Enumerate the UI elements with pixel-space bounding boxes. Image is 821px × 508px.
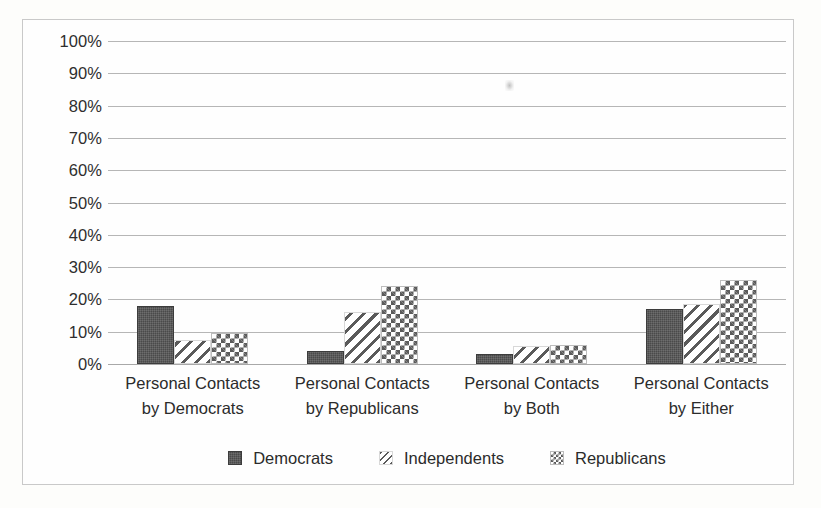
legend-swatch-icon [228,451,242,465]
bar-republicans[interactable] [550,345,587,364]
chart-legend: DemocratsIndependentsRepublicans [108,443,786,473]
gridline [108,364,786,365]
legend-swatch-icon [550,451,564,465]
bar-democrats[interactable] [476,354,513,364]
legend-swatch-icon [379,451,393,465]
bar-democrats[interactable] [137,306,174,364]
bar-republicans[interactable] [381,286,418,364]
y-axis-tick-label: 80% [69,96,102,115]
y-axis-tick-label: 10% [69,322,102,341]
y-axis-tick-label: 100% [59,32,102,51]
y-axis-tick-label: 30% [69,258,102,277]
y-axis: 100%90%80%70%60%50%40%30%20%10%0% [28,41,102,364]
bar-independents[interactable] [513,346,550,364]
bar-republicans[interactable] [211,333,248,364]
y-axis-tick-label: 50% [69,193,102,212]
bar-democrats[interactable] [646,309,683,364]
y-axis-tick-label: 20% [69,290,102,309]
bar-democrats[interactable] [307,351,344,364]
x-axis-category-label: Personal Contacts by Democrats [108,371,278,421]
bar-independents[interactable] [683,304,720,364]
legend-item-independents[interactable]: Independents [379,449,504,468]
bar-republicans[interactable] [720,280,757,364]
y-axis-tick-label: 90% [69,64,102,83]
x-axis: Personal Contacts by DemocratsPersonal C… [108,371,786,423]
bar-group [617,41,787,364]
y-axis-tick-label: 70% [69,128,102,147]
legend-item-republicans[interactable]: Republicans [550,449,666,468]
legend-label: Independents [404,449,504,468]
x-axis-category-label: Personal Contacts by Either [617,371,787,421]
y-axis-tick-label: 0% [78,355,102,374]
bar-group [447,41,617,364]
scanned-page: 100%90%80%70%60%50%40%30%20%10%0% Person… [0,0,821,508]
y-axis-tick-label: 60% [69,161,102,180]
bars-layer [108,41,786,364]
x-axis-category-label: Personal Contacts by Both [447,371,617,421]
legend-item-democrats[interactable]: Democrats [228,449,333,468]
legend-label: Republicans [575,449,666,468]
legend-label: Democrats [253,449,333,468]
bar-independents[interactable] [174,340,211,364]
bar-group [108,41,278,364]
bar-independents[interactable] [344,312,381,364]
x-axis-category-label: Personal Contacts by Republicans [278,371,448,421]
y-axis-tick-label: 40% [69,225,102,244]
bar-group [278,41,448,364]
